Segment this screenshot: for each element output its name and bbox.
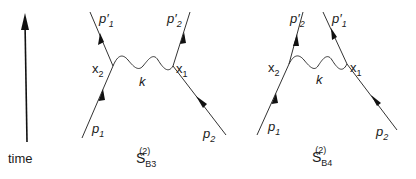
label-p2: p2 xyxy=(375,124,388,142)
time-label: time xyxy=(8,151,33,166)
time-arrow-shaft xyxy=(25,22,27,142)
feynman-diagrams-canvas: time p′1 p′2 x2 x1 k p1 p2 SB3(2) xyxy=(0,0,416,179)
arrow-icon xyxy=(331,28,337,40)
label-p2: p2 xyxy=(202,126,215,144)
time-axis: time xyxy=(8,13,33,166)
arrow-icon xyxy=(99,89,106,101)
label-p1: p1 xyxy=(91,121,104,139)
arrow-icon xyxy=(293,34,299,46)
photon-propagator xyxy=(113,56,173,70)
caption-sb3: SB3(2) xyxy=(136,146,156,169)
label-p2-prime: p′2 xyxy=(166,11,182,29)
vertex-x2: x2 xyxy=(92,61,104,79)
time-arrow-head-icon xyxy=(21,13,29,30)
vertex-x1: x1 xyxy=(176,61,188,79)
label-p1-prime: p′1 xyxy=(98,11,114,29)
caption-sb4: SB4(2) xyxy=(312,145,332,168)
vertex-x2: x2 xyxy=(268,60,280,78)
label-k: k xyxy=(139,74,147,89)
arrow-icon xyxy=(196,96,207,108)
diagram-sb3: p′1 p′2 x2 x1 k p1 p2 SB3(2) xyxy=(82,11,226,169)
label-p1: p1 xyxy=(267,119,280,137)
vertex-x1: x1 xyxy=(350,60,362,78)
label-p1-prime: p′1 xyxy=(331,11,347,29)
photon-propagator xyxy=(289,56,347,69)
arrow-icon xyxy=(371,95,381,106)
diagram-sb4: p′2 p′1 x2 x1 k p1 p2 SB4(2) xyxy=(257,11,397,168)
label-k: k xyxy=(316,72,324,87)
